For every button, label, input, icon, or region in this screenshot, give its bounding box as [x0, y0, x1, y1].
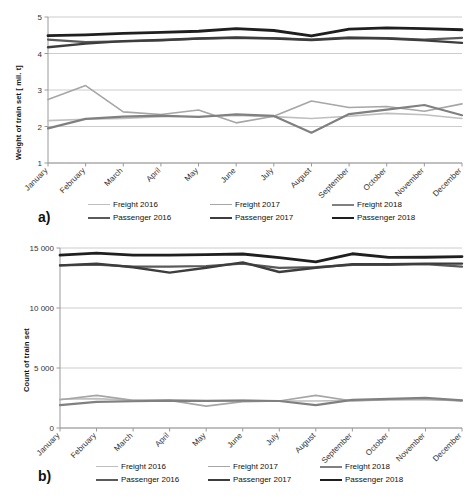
x-tick-label: August	[289, 166, 314, 191]
legend-label: Passenger 2017	[235, 213, 293, 222]
legend-swatch-icon	[332, 217, 354, 219]
legend-item-passenger-2016[interactable]: Passenger 2016	[88, 213, 210, 222]
y-tick-label: 10 000	[30, 304, 55, 313]
legend-item-freight-2017[interactable]: Freight 2017	[208, 462, 320, 471]
x-tick-label: August	[293, 431, 318, 456]
x-tick-label: November	[394, 431, 427, 464]
legend-b: Freight 2016Freight 2017Freight 2018Pass…	[96, 460, 424, 486]
legend-item-freight-2018[interactable]: Freight 2018	[320, 462, 424, 471]
x-tick-label: July	[264, 431, 280, 447]
x-tick-label: October	[362, 166, 389, 193]
y-tick-label: 15 000	[30, 244, 55, 253]
legend-swatch-icon	[88, 204, 110, 205]
legend-label: Passenger 2016	[121, 475, 179, 484]
x-tick-label: October	[364, 431, 391, 458]
legend-swatch-icon	[208, 479, 230, 481]
legend-item-passenger-2016[interactable]: Passenger 2016	[96, 475, 208, 484]
x-tick-label: June	[219, 166, 238, 185]
legend-label: Freight 2018	[345, 462, 390, 471]
y-tick-label: 2	[38, 123, 43, 132]
x-tick-label: March	[112, 431, 134, 453]
legend-label: Passenger 2018	[345, 475, 403, 484]
legend-label: Passenger 2016	[113, 213, 171, 222]
legend-label: Freight 2017	[235, 200, 280, 209]
legend-swatch-icon	[96, 479, 118, 481]
chart-panel-b: Count of train set 05 00010 00015 000Jan…	[0, 232, 474, 504]
legend-swatch-icon	[88, 217, 110, 219]
x-tick-label: April	[153, 431, 171, 449]
series-line-passenger-2018	[48, 28, 462, 36]
legend-item-freight-2016[interactable]: Freight 2016	[88, 200, 210, 209]
x-tick-label: December	[431, 431, 464, 464]
figure-two-line-charts: Weight of train set [ mil. t] 12345Janua…	[0, 0, 474, 504]
x-tick-label: May	[191, 431, 208, 448]
legend-swatch-icon	[332, 204, 354, 206]
series-line-passenger-2017	[60, 262, 462, 272]
legend-swatch-icon	[96, 466, 118, 467]
x-tick-label: February	[69, 431, 98, 460]
x-tick-label: January	[35, 431, 61, 457]
legend-row: Freight 2016Freight 2017Freight 2018	[96, 460, 424, 473]
legend-item-passenger-2018[interactable]: Passenger 2018	[332, 213, 442, 222]
y-tick-label: 5 000	[34, 364, 55, 373]
x-tick-label: January	[23, 166, 49, 192]
legend-swatch-icon	[210, 217, 232, 219]
x-tick-label: July	[259, 166, 275, 182]
y-tick-label: 4	[38, 50, 43, 59]
y-axis-label-b: Count of train set	[22, 328, 31, 392]
legend-swatch-icon	[320, 479, 342, 481]
legend-label: Passenger 2018	[357, 213, 415, 222]
legend-item-freight-2016[interactable]: Freight 2016	[96, 462, 208, 471]
legend-item-passenger-2018[interactable]: Passenger 2018	[320, 475, 424, 484]
legend-item-passenger-2017[interactable]: Passenger 2017	[210, 213, 332, 222]
x-tick-label: May	[183, 166, 200, 183]
legend-swatch-icon	[208, 466, 230, 467]
x-tick-label: November	[393, 166, 426, 199]
y-axis-label-a: Weight of train set [ mil. t]	[14, 65, 23, 160]
x-tick-label: June	[226, 431, 245, 450]
legend-row: Passenger 2016Passenger 2017Passenger 20…	[96, 473, 424, 486]
legend-swatch-icon	[210, 204, 232, 205]
legend-label: Freight 2016	[113, 200, 158, 209]
series-line-passenger-2017	[48, 37, 462, 47]
panel-letter-b: b)	[38, 468, 51, 484]
legend-label: Passenger 2017	[233, 475, 291, 484]
legend-label: Freight 2016	[121, 462, 166, 471]
panel-letter-a: a)	[38, 209, 50, 225]
legend-item-passenger-2017[interactable]: Passenger 2017	[208, 475, 320, 484]
chart-panel-a: Weight of train set [ mil. t] 12345Janua…	[0, 0, 474, 236]
legend-swatch-icon	[320, 466, 342, 468]
legend-item-freight-2018[interactable]: Freight 2018	[332, 200, 442, 209]
legend-label: Freight 2017	[233, 462, 278, 471]
x-tick-label: February	[58, 166, 87, 195]
x-tick-label: April	[145, 166, 163, 184]
series-line-passenger-2018	[60, 253, 462, 262]
y-tick-label: 3	[38, 86, 43, 95]
legend-a: Freight 2016Freight 2017Freight 2018Pass…	[88, 198, 442, 224]
legend-row: Passenger 2016Passenger 2017Passenger 20…	[88, 211, 442, 224]
y-tick-label: 5	[38, 13, 43, 22]
legend-row: Freight 2016Freight 2017Freight 2018	[88, 198, 442, 211]
legend-item-freight-2017[interactable]: Freight 2017	[210, 200, 332, 209]
x-tick-label: September	[316, 166, 350, 200]
x-tick-label: December	[431, 166, 464, 199]
legend-label: Freight 2018	[357, 200, 402, 209]
x-tick-label: March	[103, 166, 125, 188]
